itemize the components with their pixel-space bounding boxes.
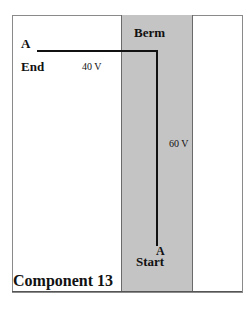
path-segment-horizontal	[37, 50, 158, 52]
berm-label: Berm	[134, 26, 165, 39]
start-label: Start	[136, 255, 164, 268]
diagram-title: Component 13	[13, 273, 113, 289]
vertical-segment-label: 60 V	[169, 139, 189, 149]
frame-bottom-border	[12, 291, 242, 292]
path-segment-vertical	[156, 50, 158, 246]
horizontal-segment-label: 40 V	[82, 62, 102, 72]
end-marker: A	[21, 37, 30, 50]
end-label: End	[21, 60, 44, 73]
